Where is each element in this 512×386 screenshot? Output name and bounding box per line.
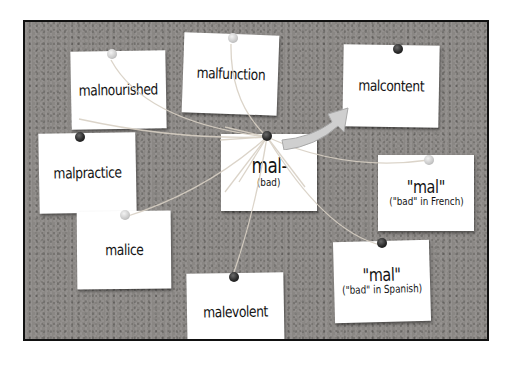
note-malnourished: malnourished <box>70 50 166 130</box>
root-word: mal- <box>251 156 287 177</box>
pin-icon <box>228 33 238 43</box>
note-word: malice <box>105 241 143 259</box>
note-word: malfunction <box>196 64 265 84</box>
pin-icon <box>393 44 403 54</box>
note-malevolent: malevolent <box>186 272 284 341</box>
note-malcontent: malcontent <box>342 44 439 128</box>
pin-icon <box>120 210 130 220</box>
origin-word: "mal" <box>407 178 445 196</box>
origin-gloss: ("bad" in French) <box>389 196 463 208</box>
note-malice: malice <box>77 211 172 290</box>
note-word: malcontent <box>358 76 424 95</box>
pin-icon <box>75 132 85 142</box>
pin-icon <box>262 131 272 141</box>
note-french: "mal" ("bad" in French) <box>378 155 474 231</box>
origin-gloss: ("bad" in Spanish) <box>342 283 422 297</box>
pin-icon <box>229 272 239 282</box>
note-malfunction: malfunction <box>182 32 280 115</box>
root-meaning: (bad) <box>257 177 280 189</box>
note-word: malevolent <box>203 302 268 321</box>
note-word: malnourished <box>79 80 158 99</box>
note-word: malpractice <box>53 163 121 182</box>
corkboard: malnourished malfunction malcontent malp… <box>23 20 489 341</box>
note-malpractice: malpractice <box>38 132 136 214</box>
note-spanish: "mal" ("bad" in Spanish) <box>333 240 431 323</box>
pin-icon <box>107 49 117 59</box>
pin-icon <box>424 155 434 165</box>
pin-icon <box>377 238 387 248</box>
arrow-icon <box>280 100 355 150</box>
